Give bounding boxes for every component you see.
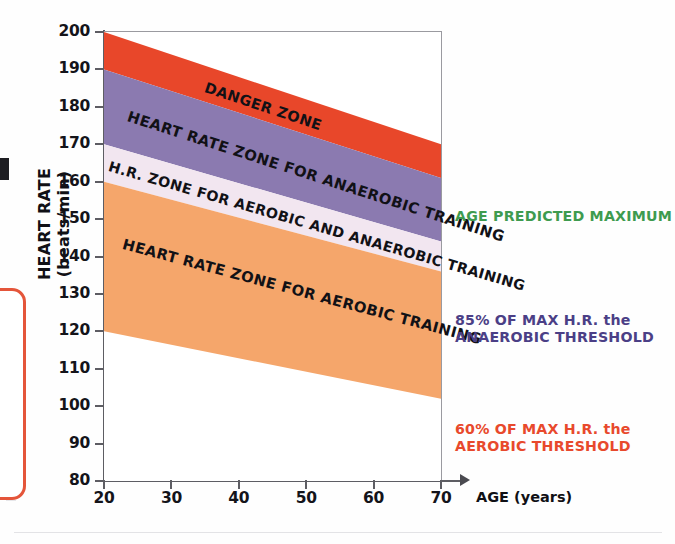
x-tick-label-60: 60 bbox=[352, 489, 396, 507]
y-tick-label-130: 130 bbox=[30, 284, 90, 302]
legend-anaerobic-line2: ANAEROBIC THRESHOLD bbox=[455, 329, 654, 346]
legend-max-label: AGE PREDICTED MAXIMUM bbox=[455, 208, 672, 225]
y-tick-label-190: 190 bbox=[30, 59, 90, 77]
y-tick-160 bbox=[95, 181, 104, 183]
decorative-left-rule bbox=[6, 500, 16, 501]
y-tick-90 bbox=[95, 443, 104, 445]
y-tick-label-200: 200 bbox=[30, 22, 90, 40]
legend-aerobic-line1: 60% OF MAX H.R. the bbox=[455, 421, 631, 438]
x-tick-label-40: 40 bbox=[217, 489, 261, 507]
decorative-red-frame bbox=[0, 288, 26, 500]
y-tick-200 bbox=[95, 31, 104, 33]
x-tick-label-30: 30 bbox=[149, 489, 193, 507]
y-tick-label-180: 180 bbox=[30, 97, 90, 115]
y-tick-190 bbox=[95, 68, 104, 70]
y-tick-170 bbox=[95, 143, 104, 145]
x-tick-label-20: 20 bbox=[82, 489, 126, 507]
y-tick-150 bbox=[95, 218, 104, 220]
y-tick-label-150: 150 bbox=[30, 209, 90, 227]
x-tick-20 bbox=[103, 480, 105, 489]
y-tick-label-90: 90 bbox=[30, 434, 90, 452]
legend-anaerobic-threshold: 85% OF MAX H.R. the ANAEROBIC THRESHOLD bbox=[455, 312, 654, 346]
x-tick-label-70: 70 bbox=[419, 489, 463, 507]
x-tick-30 bbox=[170, 480, 172, 489]
x-tick-label-50: 50 bbox=[284, 489, 328, 507]
y-tick-label-120: 120 bbox=[30, 321, 90, 339]
y-tick-100 bbox=[95, 405, 104, 407]
x-axis-title: AGE (years) bbox=[476, 489, 572, 505]
y-tick-130 bbox=[95, 293, 104, 295]
y-tick-180 bbox=[95, 106, 104, 108]
y-tick-140 bbox=[95, 256, 104, 258]
chart-page: HEART RATE (beats/min) AGE (years) DANGE… bbox=[0, 0, 675, 544]
y-tick-label-170: 170 bbox=[30, 134, 90, 152]
x-tick-60 bbox=[373, 480, 375, 489]
x-axis-arrow-icon bbox=[460, 474, 470, 486]
x-tick-50 bbox=[305, 480, 307, 489]
decorative-bottom-rule bbox=[14, 532, 662, 533]
y-tick-label-80: 80 bbox=[30, 471, 90, 489]
y-tick-label-100: 100 bbox=[30, 396, 90, 414]
legend-age-predicted-maximum: AGE PREDICTED MAXIMUM bbox=[455, 208, 672, 225]
y-tick-120 bbox=[95, 330, 104, 332]
legend-anaerobic-line1: 85% OF MAX H.R. the bbox=[455, 312, 654, 329]
x-tick-40 bbox=[238, 480, 240, 489]
legend-aerobic-line2: AEROBIC THRESHOLD bbox=[455, 438, 631, 455]
x-tick-70 bbox=[440, 480, 442, 489]
y-tick-label-140: 140 bbox=[30, 247, 90, 265]
y-tick-110 bbox=[95, 368, 104, 370]
legend-aerobic-threshold: 60% OF MAX H.R. the AEROBIC THRESHOLD bbox=[455, 421, 631, 455]
decorative-dark-tab bbox=[0, 158, 9, 180]
y-tick-label-160: 160 bbox=[30, 172, 90, 190]
y-tick-label-110: 110 bbox=[30, 359, 90, 377]
